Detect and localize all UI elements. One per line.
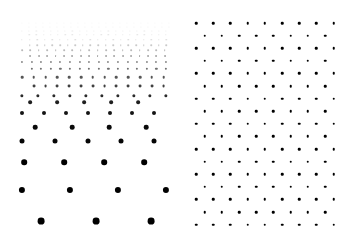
lattice-dot xyxy=(272,211,275,214)
lattice-dot xyxy=(324,160,327,163)
lattice-dot xyxy=(307,34,310,37)
lattice-dot xyxy=(93,30,94,31)
lattice-dot xyxy=(36,39,37,40)
lattice-dot xyxy=(136,61,138,63)
lattice-dot xyxy=(42,22,43,23)
lattice-dot xyxy=(72,34,73,35)
lattice-dot xyxy=(43,30,44,31)
lattice-dot xyxy=(79,30,80,31)
lattice-dot xyxy=(88,68,90,70)
lattice-dot xyxy=(221,186,224,189)
lattice-dot xyxy=(30,68,32,70)
lattice-dot xyxy=(53,139,58,144)
lattice-dot xyxy=(246,123,249,126)
right-panel-dot-canvas xyxy=(180,0,354,244)
left-panel-graded-lattice xyxy=(0,0,180,244)
lattice-dot xyxy=(151,76,154,79)
lattice-dot xyxy=(101,34,102,35)
lattice-dot xyxy=(298,97,301,100)
lattice-dot xyxy=(324,211,327,214)
lattice-dot xyxy=(129,30,130,31)
lattice-dot xyxy=(307,160,310,163)
lattice-dot xyxy=(50,68,52,70)
lattice-dot xyxy=(150,85,153,88)
lattice-dot xyxy=(29,34,30,35)
lattice-dot xyxy=(117,68,119,70)
lattice-dot xyxy=(168,26,169,27)
lattice-dot xyxy=(147,49,149,51)
lattice-dot xyxy=(155,68,157,70)
lattice-dot xyxy=(332,22,335,25)
lattice-dot xyxy=(246,223,249,226)
lattice-dot xyxy=(91,22,92,23)
lattice-dot xyxy=(115,76,118,79)
lattice-dot xyxy=(289,34,292,37)
lattice-dot xyxy=(315,123,318,126)
lattice-dot xyxy=(74,39,75,40)
lattice-dot xyxy=(57,34,58,35)
lattice-dot xyxy=(238,135,241,138)
lattice-dot xyxy=(332,123,335,126)
lattice-dot xyxy=(68,85,71,88)
lattice-dot xyxy=(36,30,37,31)
lattice-dot xyxy=(281,173,284,176)
lattice-dot xyxy=(140,22,141,23)
lattice-dot xyxy=(255,85,258,88)
lattice-dot xyxy=(56,76,59,79)
lattice-dot xyxy=(147,26,148,27)
lattice-dot xyxy=(272,110,275,113)
lattice-dot xyxy=(203,135,206,138)
lattice-dot xyxy=(40,61,42,63)
lattice-dot xyxy=(32,85,35,88)
lattice-dot xyxy=(92,76,95,79)
lattice-dot xyxy=(108,111,112,115)
lattice-dot xyxy=(264,223,267,226)
lattice-dot xyxy=(126,68,128,70)
lattice-dot xyxy=(229,22,232,25)
lattice-dot xyxy=(281,47,284,50)
lattice-dot xyxy=(212,22,215,25)
lattice-dot xyxy=(90,44,92,46)
lattice-dot xyxy=(38,49,40,51)
lattice-dot xyxy=(86,30,87,31)
lattice-dot xyxy=(307,211,310,214)
lattice-dot xyxy=(65,34,66,35)
lattice-dot xyxy=(298,148,301,151)
lattice-dot xyxy=(108,34,109,35)
lattice-dot xyxy=(90,39,91,40)
lattice-dot xyxy=(246,173,249,176)
lattice-dot xyxy=(98,68,100,70)
lattice-dot xyxy=(324,110,327,113)
lattice-dot xyxy=(161,22,162,23)
lattice-dot xyxy=(152,139,157,144)
lattice-dot xyxy=(203,160,206,163)
lattice-dot xyxy=(20,139,25,144)
lattice-dot xyxy=(30,49,32,51)
lattice-dot xyxy=(82,39,83,40)
lattice-dot xyxy=(72,30,73,31)
lattice-dot xyxy=(212,47,215,50)
lattice-dot xyxy=(70,125,75,130)
lattice-dot xyxy=(238,186,241,189)
lattice-dot xyxy=(120,44,122,46)
lattice-dot xyxy=(97,39,98,40)
lattice-dot xyxy=(221,135,224,138)
lattice-dot xyxy=(195,148,198,151)
lattice-dot xyxy=(120,39,121,40)
lattice-dot xyxy=(64,111,68,115)
lattice-dot xyxy=(79,34,80,35)
lattice-dot xyxy=(264,173,267,176)
lattice-dot xyxy=(324,186,327,189)
lattice-dot xyxy=(29,44,31,46)
lattice-dot xyxy=(122,30,123,31)
lattice-dot xyxy=(229,198,232,201)
lattice-dot xyxy=(80,76,83,79)
lattice-dot xyxy=(31,61,33,63)
lattice-dot xyxy=(195,173,198,176)
lattice-dot xyxy=(115,85,118,88)
lattice-dot xyxy=(55,100,59,104)
lattice-dot xyxy=(88,49,90,51)
lattice-dot xyxy=(238,60,241,63)
lattice-dot xyxy=(315,97,318,100)
lattice-dot xyxy=(100,94,103,97)
